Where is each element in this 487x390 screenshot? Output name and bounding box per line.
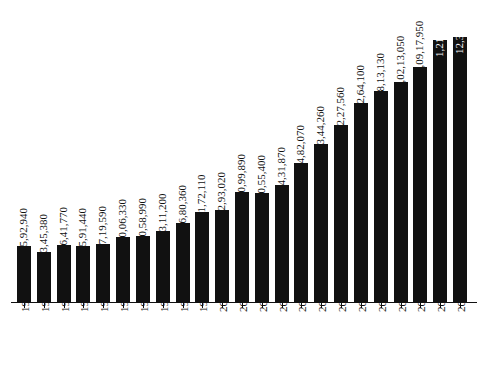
bar-value-label: 12,319,750 (454, 5, 465, 55)
x-axis-category-label: 1991-92 (40, 275, 51, 312)
x-axis-category-label: 2007-08 (357, 275, 368, 312)
bar[interactable] (394, 82, 408, 302)
x-axis-category-label: 2000-01 (218, 275, 229, 312)
bar-value-label: 92,64,100 (355, 65, 366, 109)
x-axis-category-label: 2011-12 (436, 276, 447, 312)
x-axis-category-label: 1993-94 (79, 275, 90, 312)
x-axis-category-label: 1994-95 (99, 275, 110, 312)
x-axis-category-label: 1999-00 (198, 275, 209, 312)
x-axis-category-label: 1990-91 (20, 275, 31, 312)
bar-value-label: 1,09,17,950 (414, 21, 425, 73)
bar[interactable] (433, 40, 447, 302)
bar-value-label: 82,27,560 (335, 87, 346, 131)
x-axis-category-label: 2012-13 (456, 275, 467, 312)
x-axis-category-label: 1996-97 (139, 275, 150, 312)
x-axis-category-label: 1998-99 (179, 275, 190, 312)
bar-value-label: 26,41,770 (58, 207, 69, 251)
x-axis-category-label: 2003-04 (278, 275, 289, 312)
bar-value-label: 36,80,360 (177, 185, 188, 229)
bar-value-label: 73,44,260 (315, 106, 326, 150)
bar-value-label: 50,55,400 (256, 155, 267, 199)
x-axis-category-label: 2001-02 (238, 275, 249, 312)
bar-value-label: 23,45,380 (38, 214, 49, 258)
bar[interactable] (374, 91, 388, 302)
x-axis-category-label: 2002-03 (258, 275, 269, 312)
x-axis-category-label: 1997-98 (159, 275, 170, 312)
bar-value-label: 25,92,940 (18, 208, 29, 252)
bar-value-label: 98,13,130 (375, 53, 386, 97)
bar-value-label: 1,02,13,050 (395, 36, 406, 88)
x-axis-category-label: 1995-96 (119, 275, 130, 312)
bar[interactable] (354, 103, 368, 302)
bar-value-label: 27,19,590 (97, 206, 108, 250)
bar-value-label: 1,21,62,660 (434, 5, 445, 57)
x-axis-category-label: 2004-05 (297, 275, 308, 312)
x-axis-category-label: 2005-06 (317, 275, 328, 312)
bar-value-label: 33,11,200 (157, 193, 168, 237)
bar-value-label: 54,31,870 (276, 147, 287, 191)
chart-root: 25,92,9401990-9123,45,3801991-9226,41,77… (0, 0, 487, 390)
bar-value-label: 25,91,440 (77, 208, 88, 252)
bar-value-label: 42,93,020 (216, 172, 227, 216)
bar-value-label: 30,06,330 (117, 199, 128, 243)
bar-chart-plot-area: 25,92,9401990-9123,45,3801991-9226,41,77… (0, 0, 487, 390)
bar-value-label: 30,58,990 (137, 198, 148, 242)
bar-value-label: 50,99,890 (236, 154, 247, 198)
bar-value-label: 41,72,110 (196, 174, 207, 218)
bar[interactable] (413, 67, 427, 302)
x-axis-category-label: 1992-93 (60, 275, 71, 312)
bar-value-label: 64,82,070 (295, 125, 306, 169)
x-axis-category-label: 2008-09 (377, 275, 388, 312)
x-axis-category-label: 2006-07 (337, 275, 348, 312)
bar[interactable] (453, 37, 467, 302)
x-axis-category-label: 2009-10 (397, 275, 408, 312)
x-axis-category-label: 2010-11 (416, 276, 427, 312)
